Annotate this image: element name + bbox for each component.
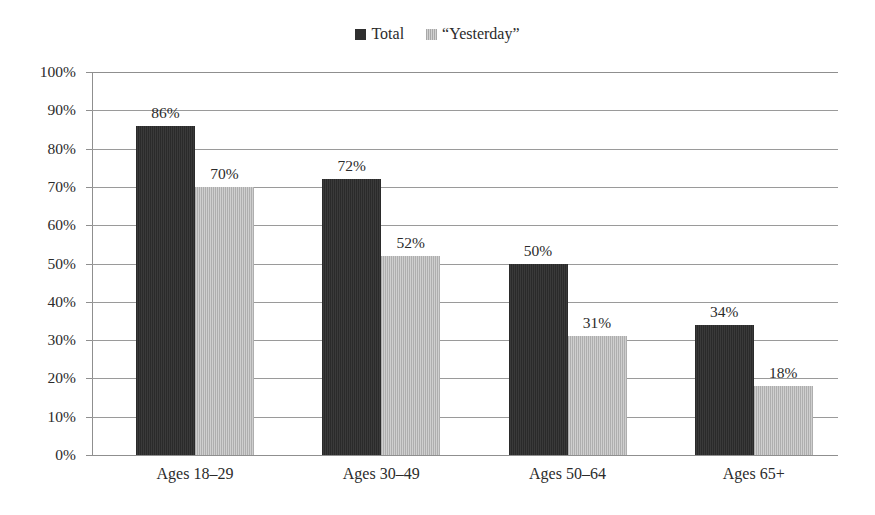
y-axis-labels: 0%10%20%30%40%50%60%70%80%90%100% [0,72,84,456]
x-axis-labels: Ages 18–29Ages 30–49Ages 50–64Ages 65+ [93,466,838,496]
y-axis-tick-label: 50% [48,256,76,272]
bar-value-label: 52% [381,235,440,251]
y-axis-tick-label: 90% [48,103,76,119]
y-axis-tick-label: 10% [48,409,76,425]
bar-total: 50% [509,264,568,456]
y-axis-tick [86,455,92,456]
bar-value-label: 18% [754,365,813,381]
y-axis-tick-label: 80% [48,141,76,157]
y-axis-tick-label: 0% [55,447,76,463]
y-axis-tick [86,225,92,226]
chart-legend: Total “Yesterday” [0,26,875,42]
y-axis-tick [86,417,92,418]
bar-group: 72%52% [279,72,465,455]
y-axis-tick-label: 40% [48,294,76,310]
x-axis-tick-label: Ages 50–64 [529,466,606,482]
x-axis-line [92,455,838,456]
y-axis-tick-label: 30% [48,332,76,348]
bar-yesterday: 70% [195,187,254,455]
bar-chart: Total “Yesterday” 0%10%20%30%40%50%60%70… [0,0,875,515]
x-axis-tick-label: Ages 18–29 [157,466,234,482]
legend-item-total: Total [355,26,404,42]
y-axis-tick [86,72,92,73]
y-axis-tick [86,340,92,341]
y-axis-tick-label: 20% [48,371,76,387]
y-axis-tick [86,187,92,188]
bar-total: 34% [695,325,754,455]
y-axis-tick [86,302,92,303]
yesterday-swatch-icon [426,29,437,40]
bar-total: 72% [322,179,381,455]
y-axis-tick-label: 100% [40,64,76,80]
bar-yesterday: 31% [568,336,627,455]
bar-group: 50%31% [466,72,652,455]
bar-value-label: 34% [695,304,754,320]
y-axis-tick-label: 70% [48,179,76,195]
legend-label-yesterday: “Yesterday” [442,26,519,42]
total-swatch-icon [355,29,366,40]
bar-value-label: 50% [509,243,568,259]
bar-yesterday: 18% [754,386,813,455]
legend-item-yesterday: “Yesterday” [426,26,519,42]
y-axis-tick [86,110,92,111]
bar-value-label: 72% [322,158,381,174]
bar-groups: 86%70%72%52%50%31%34%18% [93,72,838,455]
legend-label-total: Total [371,26,404,42]
bar-value-label: 31% [568,315,627,331]
x-axis-tick-label: Ages 30–49 [343,466,420,482]
y-axis-tick [86,149,92,150]
bar-group: 34%18% [652,72,838,455]
bar-value-label: 86% [136,105,195,121]
bar-total: 86% [136,126,195,455]
x-axis-tick-label: Ages 65+ [723,466,785,482]
bar-value-label: 70% [195,166,254,182]
y-axis-tick [86,264,92,265]
y-axis-tick-label: 60% [48,217,76,233]
y-axis-tick [86,378,92,379]
bar-group: 86%70% [93,72,279,455]
bar-yesterday: 52% [381,256,440,455]
